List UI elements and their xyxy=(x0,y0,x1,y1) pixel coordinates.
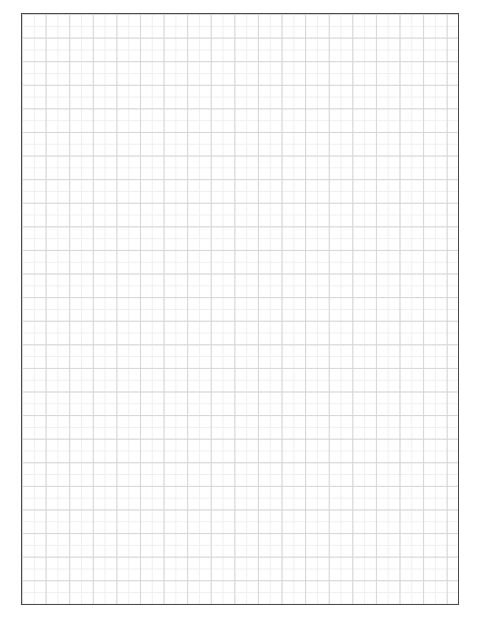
graph-paper-sheet xyxy=(21,13,459,605)
